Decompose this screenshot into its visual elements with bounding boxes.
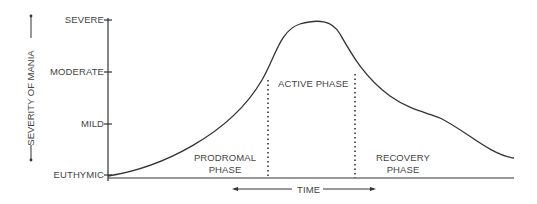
- prodromal-phase-label: PRODROMAL PHASE: [190, 153, 260, 174]
- recovery-phase-line1: RECOVERY: [368, 153, 438, 163]
- severity-arrow-down-head: [30, 159, 33, 162]
- time-arrow-left-head: [232, 187, 238, 191]
- tick-label-mild: MILD: [81, 119, 104, 129]
- prodromal-phase-line1: PRODROMAL: [190, 153, 260, 163]
- tick-label-severe: SEVERE: [65, 15, 104, 25]
- severity-curve: [108, 21, 514, 176]
- time-arrow-right-head: [370, 187, 376, 191]
- tick-label-euthymic: EUTHYMIC: [54, 170, 104, 180]
- y-axis-label: SEVERITY OF MANIA: [26, 50, 36, 145]
- tick-label-moderate: MODERATE: [50, 67, 104, 77]
- recovery-phase-line2: PHASE: [368, 165, 438, 175]
- prodromal-phase-line2: PHASE: [190, 165, 260, 175]
- recovery-phase-label: RECOVERY PHASE: [368, 153, 438, 174]
- x-axis-label: TIME: [297, 185, 320, 195]
- severity-arrow-up-head: [30, 15, 33, 18]
- active-phase-label: ACTIVE PHASE: [278, 79, 348, 89]
